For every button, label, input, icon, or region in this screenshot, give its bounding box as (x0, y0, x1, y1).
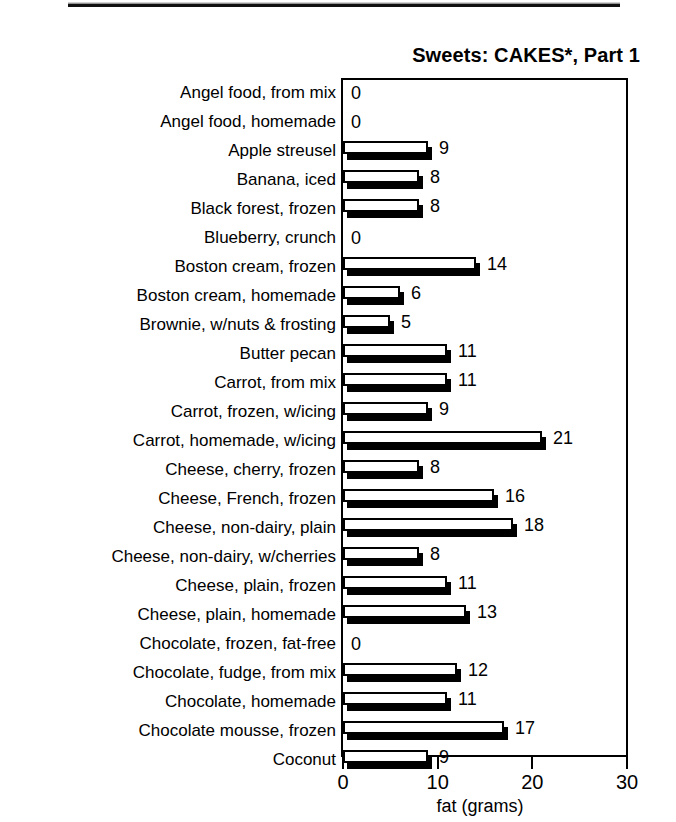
bar-value-label: 0 (351, 112, 361, 133)
category-label: Chocolate, fudge, from mix (0, 662, 336, 683)
bar-value-label: 11 (458, 370, 477, 391)
bar-value-label: 13 (477, 602, 497, 623)
bar-value-label: 11 (458, 689, 477, 710)
x-axis-tick-mark (342, 757, 344, 769)
bar-value-label: 11 (458, 573, 477, 594)
bar (343, 402, 434, 423)
bar-value-label: 8 (430, 457, 440, 478)
bar (343, 750, 434, 771)
bar (343, 257, 482, 278)
category-label: Chocolate, homemade (0, 691, 336, 712)
chart-row: Boston cream, homemade6 (0, 282, 676, 311)
bar-value-label: 6 (411, 283, 421, 304)
bar-chart: Angel food, from mix0Angel food, homemad… (0, 0, 676, 822)
category-label: Cheese, cherry, frozen (0, 459, 336, 480)
chart-row: Cheese, non-dairy, plain18 (0, 514, 676, 543)
bar-face (343, 431, 542, 444)
category-label: Chocolate, frozen, fat-free (0, 633, 336, 654)
x-axis-tick-label: 0 (313, 770, 373, 794)
category-label: Cheese, non-dairy, plain (0, 517, 336, 538)
chart-row: Angel food, from mix0 (0, 79, 676, 108)
x-axis-tick-label: 30 (597, 770, 657, 794)
chart-row: Butter pecan11 (0, 340, 676, 369)
category-label: Butter pecan (0, 343, 336, 364)
category-label: Boston cream, frozen (0, 256, 336, 277)
bar (343, 170, 425, 191)
category-label: Cheese, plain, frozen (0, 575, 336, 596)
bar-value-label: 21 (553, 428, 573, 449)
bar-face (343, 692, 447, 705)
bar (343, 489, 500, 510)
chart-row: Carrot, from mix11 (0, 369, 676, 398)
bar-value-label: 9 (439, 138, 449, 159)
category-label: Banana, iced (0, 169, 336, 190)
category-label: Boston cream, homemade (0, 285, 336, 306)
bar (343, 547, 425, 568)
bar-face (343, 344, 447, 357)
bar-value-label: 8 (430, 167, 440, 188)
bar-value-label: 8 (430, 196, 440, 217)
bar-value-label: 9 (439, 399, 449, 420)
bar (343, 518, 519, 539)
bar (343, 315, 396, 336)
x-axis-tick-mark (437, 757, 439, 769)
category-label: Carrot, frozen, w/icing (0, 401, 336, 422)
chart-row: Black forest, frozen8 (0, 195, 676, 224)
category-label: Black forest, frozen (0, 198, 336, 219)
bar-value-label: 16 (505, 486, 525, 507)
chart-row: Blueberry, crunch0 (0, 224, 676, 253)
x-axis-tick-label: 20 (502, 770, 562, 794)
bar (343, 692, 453, 713)
chart-row: Cheese, French, frozen16 (0, 485, 676, 514)
bar-face (343, 518, 513, 531)
chart-row: Cheese, cherry, frozen8 (0, 456, 676, 485)
bar-face (343, 663, 457, 676)
category-label: Chocolate mousse, frozen (0, 720, 336, 741)
bar-face (343, 373, 447, 386)
bar-face (343, 721, 504, 734)
chart-row: Cheese, non-dairy, w/cherries8 (0, 543, 676, 572)
bar-value-label: 17 (515, 718, 535, 739)
chart-row: Apple streusel9 (0, 137, 676, 166)
category-label: Coconut (0, 749, 336, 770)
x-axis-title: fat (grams) (380, 795, 580, 817)
bar-face (343, 547, 419, 560)
bar (343, 344, 453, 365)
bar-value-label: 5 (401, 312, 411, 333)
x-axis-tick-label: 10 (408, 770, 468, 794)
bar (343, 605, 472, 626)
chart-row: Chocolate, homemade11 (0, 688, 676, 717)
bar-value-label: 11 (458, 341, 477, 362)
bar-face (343, 141, 428, 154)
chart-row: Banana, iced8 (0, 166, 676, 195)
bar-face (343, 489, 494, 502)
category-label: Apple streusel (0, 140, 336, 161)
bar-face (343, 576, 447, 589)
category-label: Carrot, homemade, w/icing (0, 430, 336, 451)
category-label: Brownie, w/nuts & frosting (0, 314, 336, 335)
bar-face (343, 750, 428, 763)
category-label: Angel food, homemade (0, 111, 336, 132)
bar-face (343, 460, 419, 473)
bar-value-label: 9 (439, 747, 449, 768)
bar (343, 460, 425, 481)
bar-face (343, 170, 419, 183)
bar-value-label: 14 (487, 254, 507, 275)
bar-value-label: 8 (430, 544, 440, 565)
chart-row: Boston cream, frozen14 (0, 253, 676, 282)
bar (343, 199, 425, 220)
bar (343, 576, 453, 597)
bar-face (343, 402, 428, 415)
bar (343, 141, 434, 162)
category-label: Cheese, plain, homemade (0, 604, 336, 625)
bar (343, 373, 453, 394)
bar-face (343, 199, 419, 212)
category-label: Cheese, French, frozen (0, 488, 336, 509)
x-axis-tick-mark (626, 757, 628, 769)
category-label: Angel food, from mix (0, 82, 336, 103)
bar (343, 663, 463, 684)
bar (343, 721, 510, 742)
bar-value-label: 18 (524, 515, 544, 536)
category-label: Cheese, non-dairy, w/cherries (0, 546, 336, 567)
category-label: Blueberry, crunch (0, 227, 336, 248)
